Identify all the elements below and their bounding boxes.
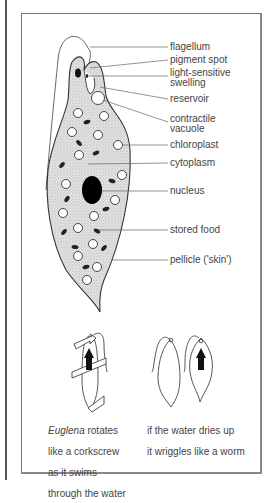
label-swelling: swelling [170,78,206,88]
label-cytoplasm: cytoplasm [170,158,215,168]
caption-swimming-line3: as it swims [48,468,126,479]
caption-wriggling: if the water dries up it wriggles like a… [147,415,245,468]
label-nucleus: nucleus [170,186,204,196]
nucleus-shape [82,176,102,204]
label-stored-food: stored food [170,225,220,235]
label-pellicle: pellicle ('skin') [170,255,232,265]
label-chloroplast: chloroplast [170,140,218,150]
caption-swimming-line1: rotates [85,425,118,436]
caption-euglena-italic: Euglena [48,425,85,436]
label-flagellum: flagellum [170,42,210,52]
pigment-spot [75,69,81,78]
caption-wriggling-line2: it wriggles like a worm [147,447,245,458]
caption-swimming: Euglena rotates like a corkscrew as it s… [48,415,126,503]
label-reservoir: reservoir [170,94,209,104]
euglena-swimming-figure [72,333,107,412]
euglena-wriggling-figures [152,336,212,407]
reservoir-shape [92,92,105,105]
caption-swimming-line2: like a corkscrew [48,447,126,458]
caption-swimming-line4: through the water [48,489,126,500]
caption-wriggling-line1: if the water dries up [147,426,245,437]
label-vacuole: vacuole [170,124,204,134]
label-pigment-spot: pigment spot [170,55,227,65]
